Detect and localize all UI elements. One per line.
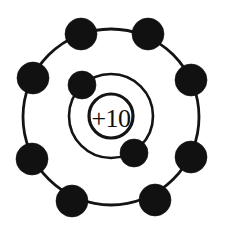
outer-electron-3 <box>17 62 49 94</box>
inner-electron-1 <box>68 71 96 99</box>
outer-electron-4 <box>175 64 207 96</box>
outer-electron-5 <box>16 143 48 175</box>
nucleus-charge-label: +10 <box>91 104 131 133</box>
bohr-model-diagram: +10 <box>0 0 226 237</box>
outer-electron-6 <box>175 141 207 173</box>
atom-diagram-canvas: +10 <box>0 0 226 237</box>
outer-electron-7 <box>56 185 88 217</box>
inner-electron-2 <box>120 139 148 167</box>
outer-electron-2 <box>132 18 164 50</box>
outer-electron-1 <box>65 18 97 50</box>
outer-electron-8 <box>139 184 171 216</box>
